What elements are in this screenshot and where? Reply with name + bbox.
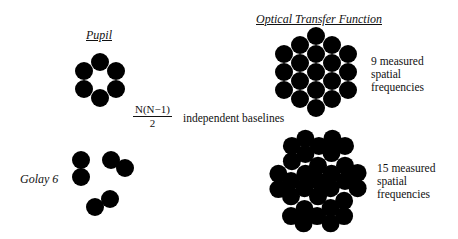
pupil-header: Pupil xyxy=(86,28,112,43)
otf-bottom-caption: 15 measured spatial frequencies xyxy=(377,162,435,201)
otf-top-line2: spatial xyxy=(371,68,424,81)
formula-numerator: N(N−1) xyxy=(133,103,172,117)
otf-circle xyxy=(339,63,357,81)
baselines-label: independent baselines xyxy=(183,112,284,125)
aperture-circle xyxy=(116,159,134,177)
otf-circle xyxy=(307,63,325,81)
otf-circle xyxy=(323,165,341,183)
otf-circle xyxy=(291,90,309,108)
otf-circle xyxy=(323,90,341,108)
aperture-circle xyxy=(91,53,109,71)
golay-label: Golay 6 xyxy=(20,172,58,187)
baselines-formula: N(N−1) 2 xyxy=(133,103,172,130)
otf-circle xyxy=(339,45,357,63)
golay6-aperture xyxy=(72,151,134,216)
otf-circle xyxy=(275,81,293,99)
otf-top-line1: 9 measured xyxy=(371,55,424,68)
otf-circle xyxy=(307,27,325,45)
otf-circle xyxy=(291,54,309,72)
aperture-circle xyxy=(75,62,93,80)
aperture-circle xyxy=(75,80,93,98)
otf-circle xyxy=(323,36,341,54)
otf-circle xyxy=(349,164,367,182)
otf-circle xyxy=(269,180,287,198)
otf-top-caption: 9 measured spatial frequencies xyxy=(371,55,424,94)
otf-top-line3: frequencies xyxy=(371,81,424,94)
aperture-circle xyxy=(107,62,125,80)
pupil-ring-aperture xyxy=(75,53,125,107)
aperture-circle xyxy=(101,190,119,208)
formula-denominator: 2 xyxy=(133,117,172,130)
otf-bottom-line1: 15 measured xyxy=(377,162,435,175)
aperture-circle xyxy=(72,151,90,169)
otf-circle xyxy=(339,81,357,99)
otf-circle xyxy=(307,99,325,117)
otf-circle xyxy=(275,45,293,63)
otf-circle xyxy=(307,45,325,63)
aperture-circle xyxy=(91,89,109,107)
otf-header: Optical Transfer Function xyxy=(256,12,382,27)
otf-circle xyxy=(296,200,314,218)
aperture-circle xyxy=(107,80,125,98)
otf-golay-pattern xyxy=(269,130,366,233)
otf-circle xyxy=(275,63,293,81)
otf-circle xyxy=(323,72,341,90)
otf-circle xyxy=(291,72,309,90)
otf-circle xyxy=(323,54,341,72)
otf-bottom-line2: spatial xyxy=(377,175,435,188)
otf-circle xyxy=(323,144,341,162)
otf-circle xyxy=(307,81,325,99)
otf-circle xyxy=(283,152,301,170)
otf-circle xyxy=(335,192,353,210)
aperture-circle xyxy=(72,168,90,186)
otf-circle xyxy=(291,36,309,54)
otf-bottom-line3: frequencies xyxy=(377,188,435,201)
otf-circle xyxy=(296,179,314,197)
otf-ring-pattern xyxy=(275,27,357,117)
